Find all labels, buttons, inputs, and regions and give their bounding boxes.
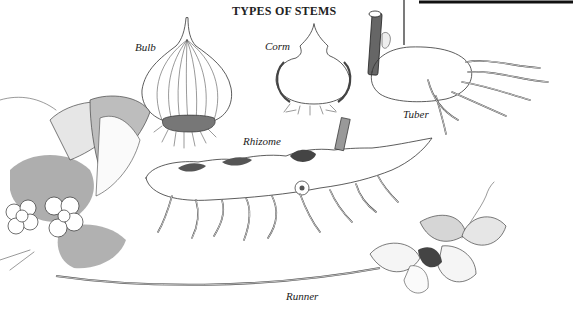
label-rhizome: Rhizome [243,135,281,147]
figure-title: TYPES OF STEMS [232,4,336,19]
bulb-drawing [142,18,232,148]
strawberry-plant-drawing [0,96,150,270]
label-tuber: Tuber [403,108,429,120]
corm-drawing [276,24,350,115]
label-bulb: Bulb [135,41,156,53]
label-corm: Corm [265,40,290,52]
tuber-drawing [368,11,548,134]
label-runner: Runner [286,290,318,302]
rhizome-drawing [146,118,432,240]
runner-drawing [56,182,506,293]
frame-line [404,0,573,45]
types-of-stems-figure: TYPES OF STEMS Bulb Corm Tuber Rhizome R… [0,0,573,322]
